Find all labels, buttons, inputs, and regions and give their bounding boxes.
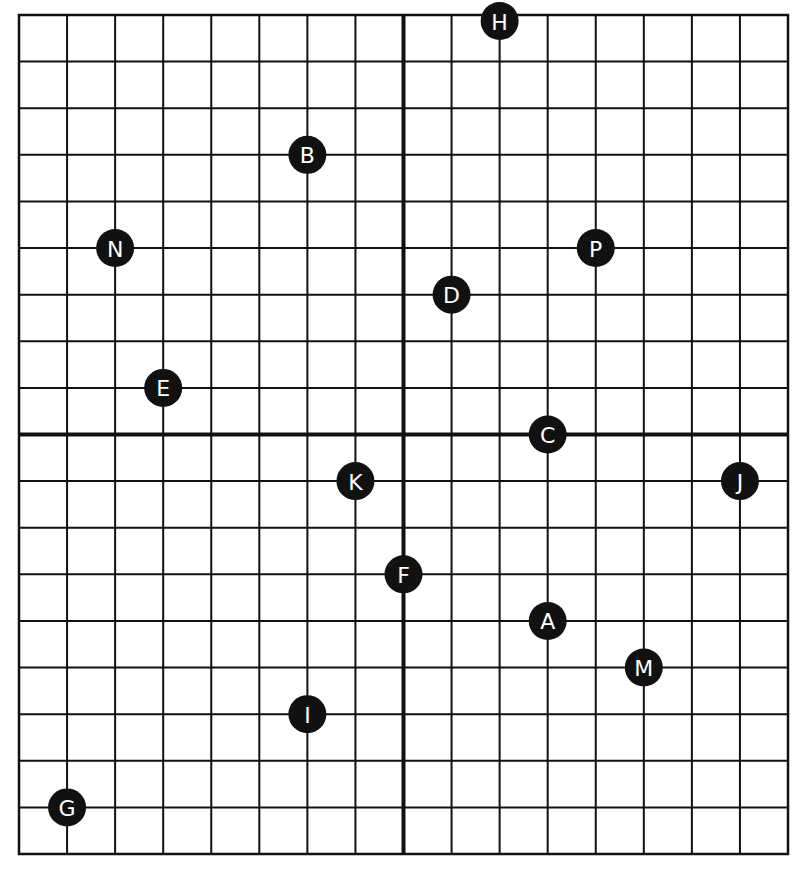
- point-m: M: [625, 649, 663, 687]
- axes: [19, 15, 788, 854]
- point-label: E: [156, 376, 170, 401]
- point-i: I: [288, 695, 326, 733]
- point-f: F: [385, 555, 423, 593]
- point-n: N: [96, 229, 134, 267]
- coordinate-grid: ABCDEFGHIJKMNP: [0, 0, 803, 884]
- point-c: C: [529, 416, 567, 454]
- point-label: I: [304, 703, 311, 728]
- point-label: A: [540, 609, 555, 634]
- point-e: E: [144, 369, 182, 407]
- point-b: B: [288, 136, 326, 174]
- point-label: J: [735, 470, 744, 495]
- point-g: G: [48, 788, 86, 826]
- point-label: H: [491, 10, 508, 35]
- point-label: P: [589, 237, 602, 262]
- point-label: D: [443, 283, 460, 308]
- point-label: F: [397, 563, 410, 588]
- point-j: J: [721, 462, 759, 500]
- point-d: D: [433, 276, 471, 314]
- point-label: B: [300, 143, 315, 168]
- point-label: G: [59, 796, 76, 821]
- point-p: P: [577, 229, 615, 267]
- point-a: A: [529, 602, 567, 640]
- point-label: M: [634, 656, 653, 681]
- point-h: H: [481, 2, 519, 40]
- point-k: K: [336, 462, 374, 500]
- point-label: K: [348, 470, 363, 495]
- point-label: C: [540, 423, 555, 448]
- point-label: N: [107, 237, 123, 262]
